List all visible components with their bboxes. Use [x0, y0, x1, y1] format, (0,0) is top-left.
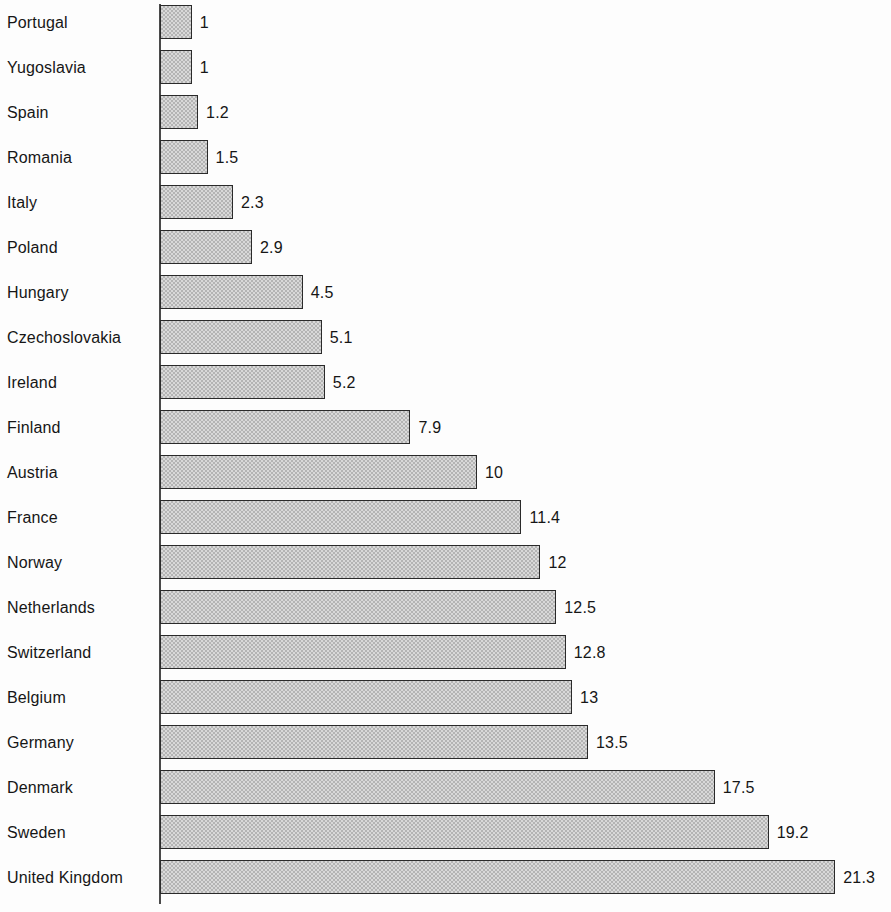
bar-value-label: 19.2 [777, 810, 809, 855]
category-label: Hungary [7, 270, 69, 315]
bar [160, 455, 477, 489]
bar-value-label: 17.5 [723, 765, 755, 810]
category-label: Poland [7, 225, 58, 270]
bar-row: Denmark17.5 [0, 765, 891, 810]
bar-row: Italy2.3 [0, 180, 891, 225]
bar-row: United Kingdom21.3 [0, 855, 891, 900]
bar-value-label: 1 [200, 45, 209, 90]
bar [160, 95, 198, 129]
bar-row: Ireland5.2 [0, 360, 891, 405]
bar-row: Yugoslavia1 [0, 45, 891, 90]
bar [160, 5, 192, 39]
bar-row: Switzerland12.8 [0, 630, 891, 675]
bar-row: France11.4 [0, 495, 891, 540]
bar-row: Romania1.5 [0, 135, 891, 180]
bar-value-label: 7.9 [418, 405, 441, 450]
category-label: Belgium [7, 675, 66, 720]
bar [160, 860, 835, 894]
category-label: Spain [7, 90, 49, 135]
bar-value-label: 11.4 [529, 495, 560, 540]
bar [160, 545, 540, 579]
category-label: Czechoslovakia [7, 315, 121, 360]
bar-value-label: 21.3 [843, 855, 875, 900]
category-label: Switzerland [7, 630, 91, 675]
category-label: France [7, 495, 58, 540]
category-label: Netherlands [7, 585, 95, 630]
bar [160, 365, 325, 399]
bar-value-label: 1 [200, 0, 209, 45]
bar-row: Spain1.2 [0, 90, 891, 135]
bar-row: Finland7.9 [0, 405, 891, 450]
bar [160, 185, 233, 219]
bar-row: Sweden19.2 [0, 810, 891, 855]
category-label: United Kingdom [7, 855, 123, 900]
bar-row: Poland2.9 [0, 225, 891, 270]
bar-value-label: 4.5 [311, 270, 334, 315]
bar [160, 500, 521, 534]
bar-value-label: 12.8 [574, 630, 606, 675]
bar-value-label: 1.2 [206, 90, 229, 135]
bar-row: Belgium13 [0, 675, 891, 720]
category-label: Denmark [7, 765, 73, 810]
category-label: Germany [7, 720, 74, 765]
bar-value-label: 1.5 [216, 135, 239, 180]
category-label: Yugoslavia [7, 45, 86, 90]
category-label: Norway [7, 540, 62, 585]
bar [160, 410, 410, 444]
bar-value-label: 10 [485, 450, 503, 495]
bar-value-label: 13.5 [596, 720, 628, 765]
bar-row: Portugal1 [0, 0, 891, 45]
bar [160, 815, 769, 849]
bar [160, 770, 715, 804]
category-label: Finland [7, 405, 61, 450]
bar [160, 725, 588, 759]
category-label: Austria [7, 450, 58, 495]
bar-value-label: 13 [580, 675, 598, 720]
category-label: Romania [7, 135, 72, 180]
bar [160, 590, 556, 624]
bar-value-label: 5.2 [333, 360, 356, 405]
bar [160, 275, 303, 309]
bar [160, 680, 572, 714]
bar [160, 140, 208, 174]
bar-value-label: 12 [548, 540, 566, 585]
category-label: Ireland [7, 360, 57, 405]
bar-row: Czechoslovakia5.1 [0, 315, 891, 360]
bar-chart-plot-area: Portugal1Yugoslavia1Spain1.2Romania1.5It… [0, 0, 891, 912]
bar-row: Netherlands12.5 [0, 585, 891, 630]
bar [160, 50, 192, 84]
bar-value-label: 2.3 [241, 180, 264, 225]
bar-row: Germany13.5 [0, 720, 891, 765]
bar-value-label: 12.5 [564, 585, 596, 630]
category-label: Sweden [7, 810, 66, 855]
chart-page: Portugal1Yugoslavia1Spain1.2Romania1.5It… [0, 0, 891, 912]
category-label: Italy [7, 180, 37, 225]
bar [160, 320, 322, 354]
category-label: Portugal [7, 0, 68, 45]
bar-value-label: 2.9 [260, 225, 283, 270]
bar [160, 230, 252, 264]
bar-row: Norway12 [0, 540, 891, 585]
bar [160, 635, 566, 669]
bar-row: Austria10 [0, 450, 891, 495]
bar-value-label: 5.1 [330, 315, 353, 360]
bar-row: Hungary4.5 [0, 270, 891, 315]
